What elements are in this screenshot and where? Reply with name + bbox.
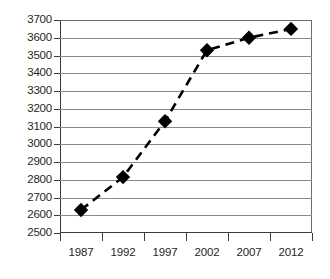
data-point-marker xyxy=(200,43,214,57)
line-chart: 3700360035003400330032003100300029002800… xyxy=(0,0,330,279)
data-point-marker xyxy=(242,31,256,45)
data-point-marker xyxy=(284,22,298,36)
data-point-marker xyxy=(158,114,172,128)
data-series-layer xyxy=(0,0,330,279)
series-line xyxy=(81,29,291,210)
